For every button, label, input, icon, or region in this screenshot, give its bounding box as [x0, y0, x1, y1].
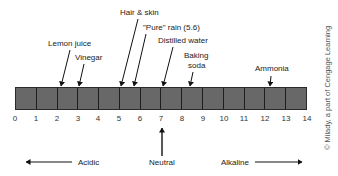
marker-arrow-pure-rain [134, 34, 146, 86]
marker-arrow-vinegar [79, 64, 84, 86]
copyright-credit: © Milady, a part of Cengage Learning [323, 26, 332, 150]
marker-arrow-hair-skin [121, 19, 138, 86]
alkaline-label: Alkaline [221, 158, 249, 167]
neutral-label: Neutral [149, 158, 175, 167]
marker-arrow-ammonia [270, 76, 271, 86]
marker-arrow-lemon-juice [61, 50, 70, 86]
marker-arrow-baking-soda [190, 72, 193, 86]
acidic-label: Acidic [78, 158, 99, 167]
marker-arrow-distilled-water [163, 47, 173, 86]
arrows-overlay [0, 0, 338, 176]
